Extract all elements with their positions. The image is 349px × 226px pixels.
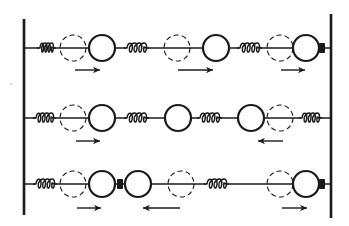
- mass-circle: [89, 171, 115, 197]
- mass-circle: [89, 35, 115, 61]
- spring-icon: [124, 43, 149, 52]
- coupling-block: [319, 43, 325, 53]
- stray-dot: [10, 83, 12, 85]
- mass-circle: [125, 171, 151, 197]
- diagram-canvas: [0, 0, 349, 226]
- mass-spring-diagram: [0, 0, 349, 226]
- spring-icon: [237, 43, 262, 52]
- spring-icon: [197, 113, 222, 122]
- spring-icon: [204, 179, 229, 188]
- spring-icon: [124, 113, 149, 122]
- mass-circle: [203, 35, 229, 61]
- spring-icon: [299, 113, 322, 122]
- spring-icon: [33, 113, 56, 122]
- chain-rows: [24, 35, 331, 211]
- mass-circle: [165, 105, 191, 131]
- chain-row-1: [24, 35, 331, 73]
- spring-icon: [33, 179, 57, 188]
- spring-icon: [37, 43, 56, 52]
- mass-circle: [89, 105, 115, 131]
- chain-row-2: [24, 105, 331, 144]
- mass-circle: [238, 105, 264, 131]
- coupling-block: [319, 179, 325, 189]
- chain-row-3: [24, 171, 331, 211]
- coupling-block: [117, 179, 123, 189]
- stray-marks: [10, 83, 12, 85]
- mass-circle: [293, 171, 319, 197]
- mass-circle: [293, 35, 319, 61]
